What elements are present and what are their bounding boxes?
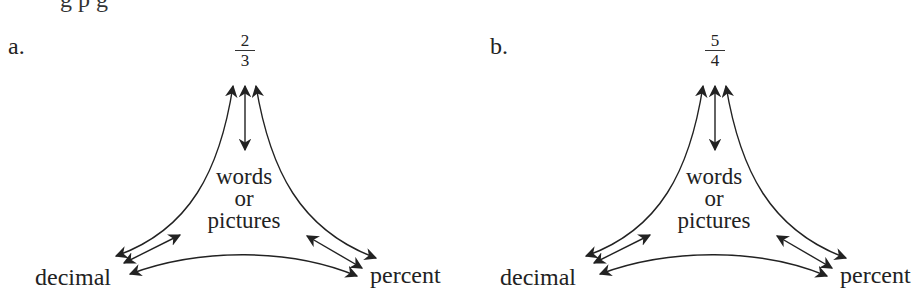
arrow-decimal-percent <box>130 255 357 276</box>
percent-node: percent <box>840 263 911 287</box>
arrows-diagram-a <box>0 0 462 303</box>
diagram-panel-a: a. 2 3 words or pictures decimal percent <box>0 0 462 303</box>
decimal-node: decimal <box>35 265 111 289</box>
decimal-node: decimal <box>500 265 576 289</box>
center-text-line: or <box>659 188 769 210</box>
fraction: 2 3 <box>235 32 255 69</box>
percent-node: percent <box>370 263 441 287</box>
words-or-pictures-node: words or pictures <box>659 166 769 232</box>
center-text-line: words <box>189 166 299 188</box>
center-text-line: or <box>189 188 299 210</box>
fraction-numerator: 5 <box>705 32 725 51</box>
panel-label: a. <box>8 34 25 58</box>
arrow-decimal-percent <box>600 255 827 276</box>
panel-label: b. <box>490 34 508 58</box>
fraction-numerator: 2 <box>235 32 255 51</box>
center-text-line: pictures <box>659 210 769 232</box>
fraction: 5 4 <box>705 32 725 69</box>
center-text-line: pictures <box>189 210 299 232</box>
center-text-line: words <box>659 166 769 188</box>
diagram-panel-b: b. 5 4 words or pictures decimal percent <box>470 0 924 303</box>
fraction-denominator: 4 <box>705 51 725 69</box>
fraction-denominator: 3 <box>235 51 255 69</box>
arrows-diagram-b <box>470 0 924 303</box>
words-or-pictures-node: words or pictures <box>189 166 299 232</box>
